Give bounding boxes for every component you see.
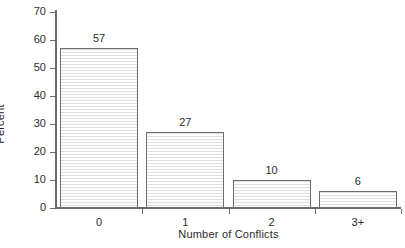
bar-chart: Percent 010203040506070 5727106 0123+ Nu…	[0, 0, 405, 248]
x-axis-title: Number of Conflicts	[56, 228, 401, 240]
y-axis-line	[55, 10, 57, 209]
x-axis-tick	[315, 209, 316, 214]
bar-value-label: 6	[328, 175, 388, 187]
y-axis-tick	[50, 96, 55, 97]
x-axis-tick-label: 2	[242, 216, 302, 228]
y-axis-tick-label: 40	[6, 89, 46, 101]
bar-value-label: 57	[69, 32, 129, 44]
x-axis-tick-label: 3+	[328, 216, 388, 228]
y-axis-tick	[50, 124, 55, 125]
y-axis-tick-label: 30	[6, 117, 46, 129]
y-axis-tick-label: 60	[6, 33, 46, 45]
y-axis-tick	[50, 180, 55, 181]
y-axis-tick-label: 10	[6, 173, 46, 185]
x-axis-tick	[401, 209, 402, 214]
y-axis-tick	[50, 152, 55, 153]
y-axis-tick-label: 20	[6, 145, 46, 157]
bar	[146, 132, 224, 208]
bar	[319, 191, 397, 208]
x-axis-tick-label: 0	[69, 216, 129, 228]
y-axis-tick-label: 50	[6, 61, 46, 73]
y-axis-tick	[50, 12, 55, 13]
x-axis-tick	[229, 209, 230, 214]
bar	[60, 48, 138, 208]
y-axis-tick	[50, 208, 55, 209]
x-axis-tick-label: 1	[155, 216, 215, 228]
y-axis-tick	[50, 68, 55, 69]
y-axis-tick-label: 0	[6, 201, 46, 213]
x-axis-tick	[142, 209, 143, 214]
bar-value-label: 27	[155, 116, 215, 128]
bar	[233, 180, 311, 208]
y-axis-tick	[50, 40, 55, 41]
y-axis-tick-label: 70	[6, 5, 46, 17]
bar-value-label: 10	[242, 164, 302, 176]
